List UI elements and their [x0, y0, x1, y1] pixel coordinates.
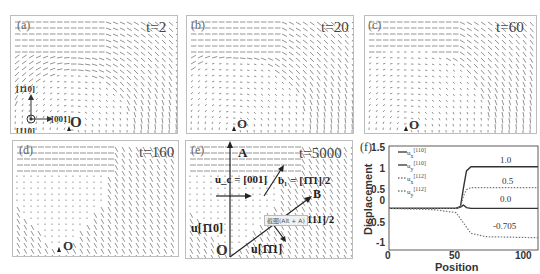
screenshot-tooltip: 截图(Alt + A) — [264, 215, 308, 226]
origin-marker-icon — [229, 123, 239, 133]
time-label: t=2 — [146, 19, 166, 36]
x-axis-title: Position — [435, 261, 478, 273]
u110-label: u[1̄10] — [191, 221, 223, 236]
origin-marker-icon — [401, 123, 411, 133]
ytick: 1.5 — [365, 142, 385, 153]
xtick: 50 — [449, 250, 460, 261]
origin-marker-icon — [64, 123, 74, 133]
panel-label: (a) — [17, 18, 30, 33]
panel-e: (e) t=5000 A B u_c = [001] b₁ = [1̄1̄1]/… — [185, 140, 353, 259]
value-label-uy110: 0.0 — [500, 194, 511, 204]
panel-a: (a) t=2 [1̄10] [001] [110] O — [10, 15, 178, 134]
burgers-vector-diagram — [186, 141, 352, 258]
panel-label: (b) — [191, 18, 205, 33]
b1-label: b₁ = [1̄1̄1]/2 — [278, 174, 330, 186]
time-label: t=160 — [139, 144, 174, 161]
panel-b: (b) t=20 O — [186, 15, 354, 134]
origin-marker-icon — [54, 244, 64, 254]
legend-item: uy[110] — [407, 160, 426, 172]
time-label: t=60 — [496, 19, 524, 36]
panel-label: (c) — [368, 18, 381, 33]
panel-c: (c) t=60 O — [364, 15, 537, 134]
xtick: 0 — [385, 250, 391, 261]
point-b-label: B — [313, 187, 321, 202]
uc-label: u_c = [001] — [215, 173, 267, 185]
y-axis-title: Displacement — [362, 163, 374, 235]
value-label-ux112: 0.5 — [502, 176, 513, 186]
legend-item: uy[112] — [407, 186, 426, 198]
value-label-ux110: 1.0 — [500, 155, 511, 165]
point-a-label: A — [238, 145, 247, 161]
displacement-chart: (f) 1.5 1 0.5 0 -0.5 -1 0 50 100 Positio… — [360, 137, 540, 274]
origin-label: O — [63, 238, 73, 254]
value-label-uy112: -0.705 — [493, 221, 516, 231]
axis-triad-icon — [11, 76, 71, 134]
origin-label: O — [216, 242, 228, 259]
legend-item: ux[112] — [407, 173, 426, 185]
ytick: -1 — [365, 237, 385, 248]
panel-d: (d) t=160 O — [12, 140, 179, 257]
panel-label: (d) — [19, 143, 33, 158]
u111-label: u[1̄1̄1] — [251, 242, 282, 257]
time-label: t=20 — [321, 19, 349, 36]
xtick: 100 — [515, 250, 532, 261]
legend-item: ux[110] — [407, 147, 426, 159]
